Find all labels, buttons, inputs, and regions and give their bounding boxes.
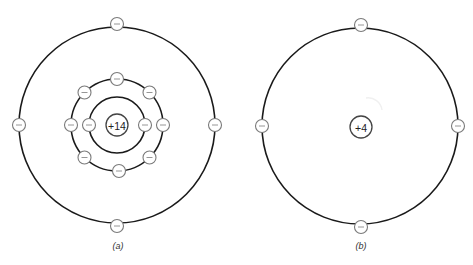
atom-b-caption: (b) — [356, 241, 367, 251]
electron-icon — [78, 151, 91, 164]
atom-a-nucleus-charge: +14 — [108, 120, 126, 132]
electron-icon — [111, 73, 124, 86]
electron-icon — [65, 119, 78, 132]
electron-icon — [111, 220, 124, 233]
electron-icon — [355, 19, 368, 32]
electron-icon — [113, 165, 126, 178]
electron-icon — [78, 86, 91, 99]
electron-icon — [143, 86, 156, 99]
electron-icon — [209, 119, 222, 132]
electron-icon — [355, 221, 368, 234]
electron-icon — [157, 119, 170, 132]
electron-icon — [139, 119, 152, 132]
electron-icon — [256, 120, 269, 133]
electron-icon — [13, 119, 26, 132]
electron-icon — [111, 18, 124, 31]
atom-b: +4 (b) — [256, 19, 465, 252]
atom-diagrams: +14 (a) +4 (b) — [0, 0, 473, 265]
atom-b-nucleus: +4 — [350, 116, 372, 138]
electron-icon — [452, 120, 465, 133]
atom-b-nucleus-charge: +4 — [355, 122, 367, 134]
atom-a-caption: (a) — [113, 241, 124, 251]
electron-icon — [143, 151, 156, 164]
faint-artifact — [366, 98, 382, 110]
atom-a-nucleus: +14 — [106, 114, 128, 136]
atom-a: +14 (a) — [13, 18, 222, 252]
electron-icon — [83, 119, 96, 132]
